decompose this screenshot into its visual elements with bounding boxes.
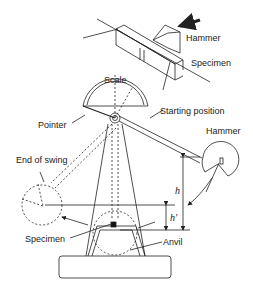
inset-hammer-label: Hammer [186, 34, 221, 43]
h-prime-label: h' [170, 213, 177, 223]
end-of-swing-label: End of swing [16, 156, 68, 165]
starting-position-label: Starting position [160, 107, 225, 116]
anvil-label: Anvil [163, 238, 183, 247]
pointer-label: Pointer [38, 121, 67, 130]
h-label: h [175, 186, 180, 196]
diagram-drawing [0, 0, 253, 290]
charpy-impact-diagram: Hammer Specimen Scale Pointer Starting p… [0, 0, 253, 290]
hammer-label: Hammer [206, 127, 241, 136]
inset-specimen-label: Specimen [191, 59, 231, 68]
inset-specimen-drawing [83, 19, 210, 90]
scale-label: Scale [104, 76, 127, 85]
specimen-label: Specimen [25, 235, 65, 244]
